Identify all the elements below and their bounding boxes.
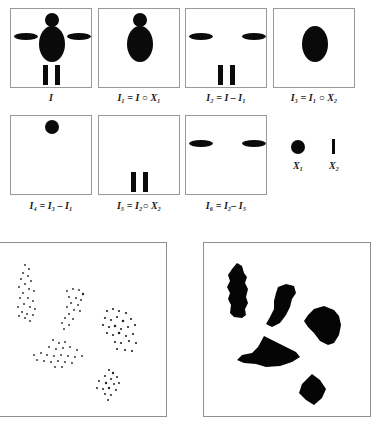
region-1 — [227, 263, 248, 318]
label-I4: I₄ = I₃ – I₁ — [10, 200, 92, 211]
head-shape — [45, 13, 59, 27]
label-X1: X₁ — [283, 160, 313, 171]
region-4 — [237, 336, 300, 367]
left-leg-shape — [43, 65, 48, 85]
right-leg-shape — [55, 65, 60, 85]
left-arm-shape — [189, 140, 213, 147]
right-leg-shape — [143, 172, 148, 192]
filled-regions-graphic — [204, 243, 371, 417]
panel-scatter-points — [0, 242, 167, 417]
structuring-element-X2-line — [332, 139, 335, 154]
scatter-points-graphic — [0, 243, 167, 417]
image-I — [10, 8, 92, 88]
region-3 — [304, 306, 341, 345]
right-leg-shape — [230, 65, 235, 85]
left-arm-shape — [14, 33, 38, 40]
left-leg-shape — [131, 172, 136, 192]
image-I2 — [185, 8, 267, 88]
head-shape — [45, 120, 59, 134]
image-I3 — [273, 8, 355, 88]
image-I6 — [185, 115, 267, 195]
label-I6: I₆ = I₂– I₅ — [185, 200, 267, 211]
panel-filled-regions — [203, 242, 371, 417]
label-I: I — [10, 92, 92, 103]
left-leg-shape — [218, 65, 223, 85]
head-shape — [133, 13, 147, 27]
label-I1: I₁ = I ○ X₁ — [98, 92, 180, 103]
image-I4 — [10, 115, 92, 195]
right-arm-shape — [67, 33, 91, 40]
image-I1 — [98, 8, 180, 88]
body-shape — [302, 26, 328, 62]
label-I3: I₃ = I₁ ○ X₂ — [273, 92, 355, 103]
label-I5: I₅ = I₂○ X₂ — [98, 200, 180, 211]
structuring-element-X1-disk — [291, 140, 305, 154]
label-X2: X₂ — [319, 160, 349, 171]
image-I5 — [98, 115, 180, 195]
right-arm-shape — [242, 140, 266, 147]
region-2 — [266, 284, 296, 327]
body-shape — [127, 26, 153, 62]
right-arm-shape — [242, 33, 266, 40]
left-arm-shape — [189, 33, 213, 40]
region-5 — [299, 374, 326, 405]
label-I2: I₂ = I – I₁ — [185, 92, 267, 103]
body-shape — [39, 26, 65, 62]
